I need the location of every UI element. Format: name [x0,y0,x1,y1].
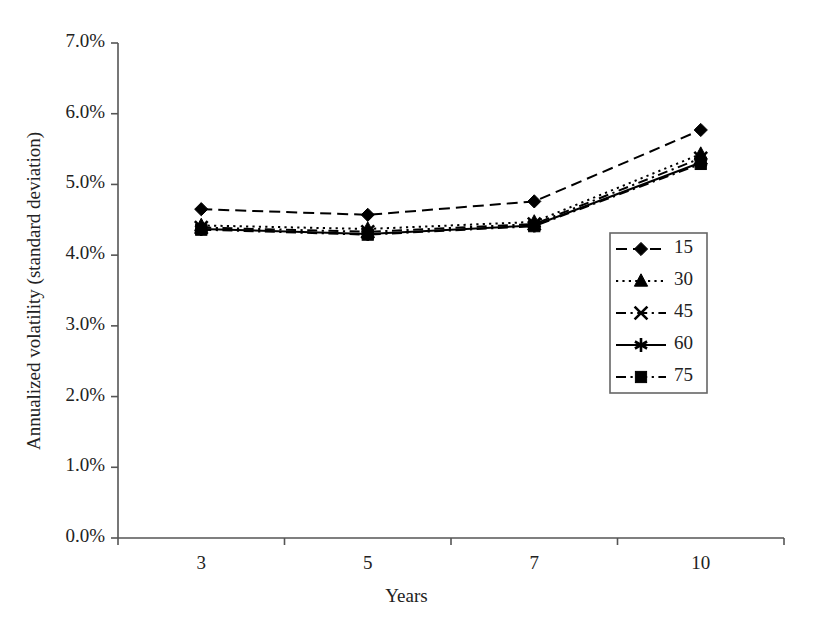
data-point-75-5 [362,229,373,240]
x-tick-label: 7 [451,552,618,574]
data-point-15-3 [195,203,208,216]
series-line-45 [201,158,701,232]
series-group [195,123,708,241]
data-point-15-10 [694,123,707,136]
series-30 [195,147,708,234]
data-point-75-3 [196,224,207,235]
y-tick-label: 5.0% [35,171,105,193]
y-tick-label: 1.0% [35,454,105,476]
series-line-75 [201,164,701,235]
x-tick-label: 3 [118,552,285,574]
series-line-60 [201,163,701,234]
data-point-75-10 [695,158,706,169]
data-point-15-5 [361,208,374,221]
y-tick-label: 7.0% [35,30,105,52]
y-axis-title: Annualized volatility (standard deviatio… [23,131,45,449]
legend-label-30: 30 [674,268,693,290]
x-tick-label: 5 [285,552,452,574]
x-axis-title: Years [0,585,813,607]
series-line-15 [201,130,701,215]
legend-label-45: 45 [674,300,693,322]
data-point-75-7 [529,221,540,232]
legend-label-75: 75 [674,364,693,386]
chart-figure: 0.0%1.0%2.0%3.0%4.0%5.0%6.0%7.0% 35710 1… [0,0,813,630]
legend-marker-75 [635,371,646,382]
series-15 [195,123,708,221]
y-tick-label: 6.0% [35,101,105,123]
data-point-15-7 [528,195,541,208]
y-tick-label: 0.0% [35,525,105,547]
x-tick-label: 10 [618,552,785,574]
y-tick-label: 2.0% [35,384,105,406]
y-tick-label: 4.0% [35,242,105,264]
legend-label-60: 60 [674,332,693,354]
legend-label-15: 15 [674,236,693,258]
y-tick-label: 3.0% [35,313,105,335]
